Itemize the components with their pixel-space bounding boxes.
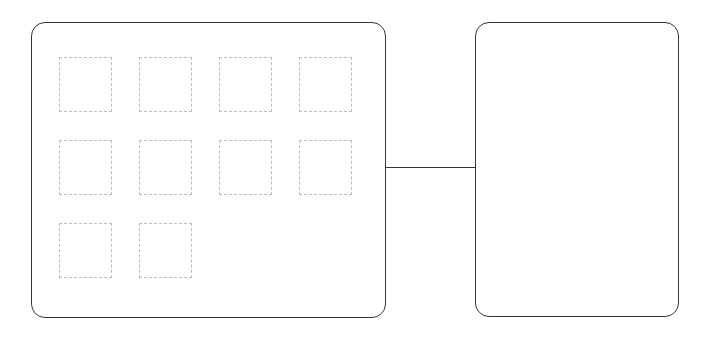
placeholder-row-1: [59, 57, 359, 112]
placeholder-row-2: [59, 140, 359, 195]
placeholder-box-10[interactable]: [139, 223, 192, 278]
content-panel[interactable]: [31, 22, 386, 318]
placeholder-box-4[interactable]: [299, 57, 352, 112]
placeholder-box-7[interactable]: [219, 140, 272, 195]
placeholder-box-6[interactable]: [139, 140, 192, 195]
wireframe-canvas: [0, 0, 712, 339]
placeholder-box-3[interactable]: [219, 57, 272, 112]
placeholder-box-5[interactable]: [59, 140, 112, 195]
placeholder-box-1[interactable]: [59, 57, 112, 112]
connector-line: [385, 167, 476, 168]
placeholder-row-3: [59, 223, 359, 278]
placeholder-box-2[interactable]: [139, 57, 192, 112]
placeholder-box-9[interactable]: [59, 223, 112, 278]
placeholder-grid: [59, 57, 359, 289]
placeholder-box-8[interactable]: [299, 140, 352, 195]
detail-panel[interactable]: [475, 22, 679, 317]
